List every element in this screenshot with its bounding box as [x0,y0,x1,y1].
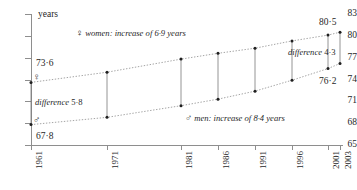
men-start-value-label: 67·8 [36,131,53,141]
men-data-point [180,104,183,107]
difference-left-value: 5·8 [71,97,82,107]
life-expectancy-chart: years 83807774716865 1961197119811986199… [0,0,357,190]
women-data-point [180,58,183,61]
legend-men-label: men: increase of 8·4 years [194,113,285,123]
men-data-point [339,62,342,65]
male-symbol-icon: ♂ [33,115,41,125]
difference-right-text: difference [288,47,324,57]
women-data-point [291,39,294,42]
women-start-value-label: 73·6 [36,58,53,68]
women-data-point [254,47,257,50]
women-data-point [217,52,220,55]
difference-left-annotation: difference 5·8 [35,98,83,107]
women-data-point [327,34,330,37]
legend-men: ♂ men: increase of 8·4 years [185,114,285,123]
difference-right-annotation: difference 4·3 [288,48,336,57]
legend-male-symbol-icon: ♂ [185,113,192,123]
legend-women: ♀ women: increase of 6·9 years [76,29,186,38]
women-trend-line [31,32,340,82]
men-data-point [217,98,220,101]
female-symbol-icon: ♀ [33,72,41,82]
legend-women-label: women: increase of 6·9 years [85,28,186,38]
difference-right-value: 4·3 [324,47,335,57]
women-end-value-label: 80·5 [319,17,336,27]
men-data-point [327,67,330,70]
legend-female-symbol-icon: ♀ [76,28,83,38]
men-data-point [106,116,109,119]
women-data-point [339,31,342,34]
men-end-value-label: 76·2 [319,76,336,86]
difference-left-text: difference [35,97,71,107]
men-data-point [254,90,257,93]
men-data-point [291,79,294,82]
women-data-point [106,71,109,74]
